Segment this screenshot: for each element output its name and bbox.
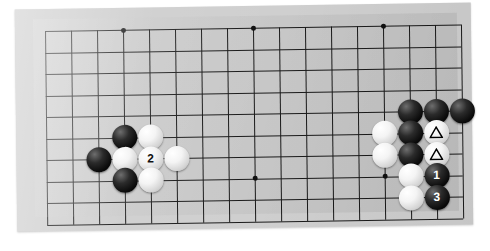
- go-board-photo: 213: [0, 0, 490, 251]
- triangle-marker-icon: [429, 126, 443, 139]
- triangle-marker-icon: [429, 147, 443, 160]
- white-stone-right-bottom[interactable]: [398, 185, 423, 210]
- go-board-stones[interactable]: 213: [33, 13, 459, 218]
- black-stone-right-top-right[interactable]: [449, 98, 474, 123]
- stone-move-number: 3: [434, 190, 441, 202]
- black-stone-move-3[interactable]: 3: [424, 184, 449, 209]
- go-board-playing-surface[interactable]: 213: [33, 13, 459, 218]
- black-stone-left-lower[interactable]: [112, 168, 137, 193]
- stone-move-number: 1: [433, 169, 440, 181]
- white-stone-left-east[interactable]: [164, 145, 189, 170]
- black-stone-left-west[interactable]: [86, 147, 111, 172]
- go-board-slab: 213: [15, 2, 473, 231]
- white-stone-right-west-lower[interactable]: [372, 142, 397, 167]
- stone-move-number: 2: [147, 152, 154, 164]
- white-stone-left-lower[interactable]: [138, 167, 163, 192]
